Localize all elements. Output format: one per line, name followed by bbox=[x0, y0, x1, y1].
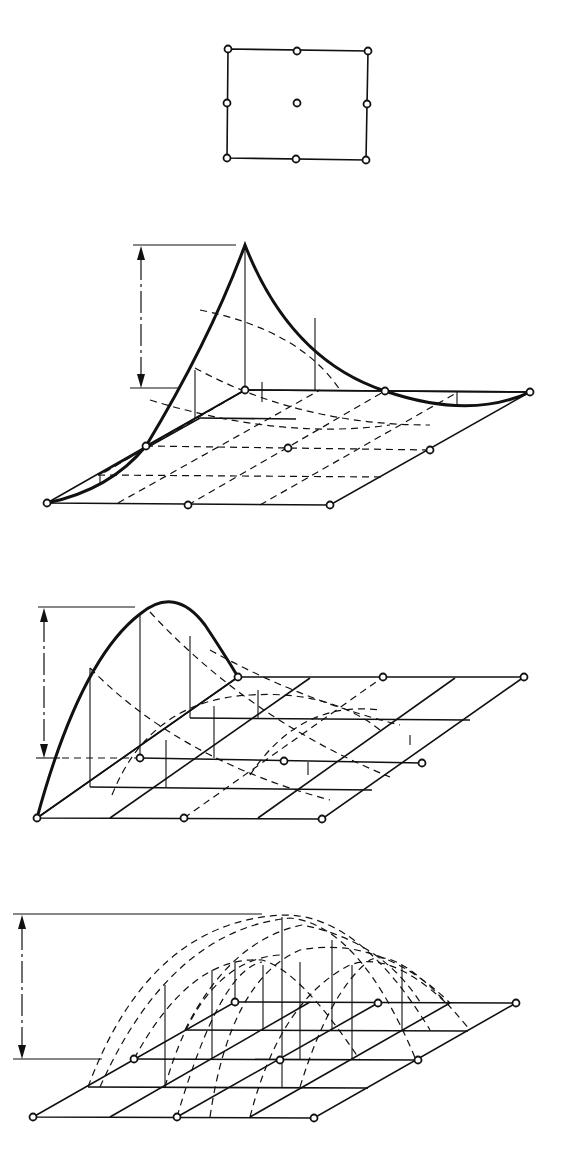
diagram-stage: Nine-node quadrilateral element and its … bbox=[0, 0, 561, 1149]
element-plan-view bbox=[224, 46, 372, 164]
corner-shape-function-plot bbox=[44, 245, 534, 509]
center-shape-function-plot bbox=[13, 914, 520, 1122]
diagram-canvas bbox=[0, 0, 561, 1149]
midside-shape-function-plot bbox=[34, 602, 528, 823]
